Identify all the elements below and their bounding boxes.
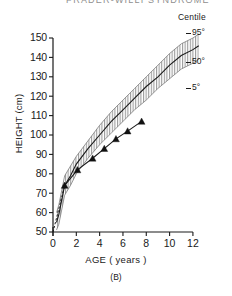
legend-title: Centile <box>178 12 206 22</box>
x-tick-label: 10 <box>164 237 176 249</box>
legend-label-5: 5° <box>192 82 200 92</box>
x-axis-label: AGE ( years ) <box>0 254 232 265</box>
patient-data-point <box>124 128 131 134</box>
x-tick-label: 4 <box>97 237 103 249</box>
legend-dash-95 <box>186 33 191 34</box>
plot-canvas: 5060708090100110120130140150024681012 <box>0 0 232 296</box>
y-tick-label: 70 <box>36 187 48 199</box>
panel-letter: (B) <box>0 272 232 282</box>
legend-label-95: 95° <box>192 27 205 37</box>
y-tick-label: 100 <box>30 128 47 140</box>
legend-dash-5 <box>186 88 191 89</box>
y-tick-label: 50 <box>36 225 48 237</box>
legend-dash-50 <box>186 62 191 63</box>
y-tick-label: 140 <box>30 51 47 63</box>
figure-title: PRADER-WILLI SYNDROME <box>66 0 210 5</box>
y-tick-label: 120 <box>30 90 47 102</box>
x-tick-label: 8 <box>143 237 149 249</box>
y-tick-label: 110 <box>31 109 47 121</box>
growth-chart-figure: PRADER-WILLI SYNDROME 506070809010011012… <box>0 0 232 296</box>
y-tick-label: 60 <box>36 206 48 218</box>
legend-label-50: 50° <box>192 56 205 66</box>
y-tick-label: 90 <box>36 148 48 160</box>
y-tick-label: 80 <box>36 167 48 179</box>
x-tick-label: 2 <box>73 237 79 249</box>
y-tick-label: 150 <box>30 31 47 43</box>
y-tick-label: 130 <box>30 70 47 82</box>
x-tick-label: 0 <box>50 237 56 249</box>
figure-title-strip: PRADER-WILLI SYNDROME <box>0 0 232 7</box>
y-axis-label: HEIGHT (cm) <box>13 84 24 164</box>
patient-data-point <box>113 135 120 141</box>
x-tick-label: 6 <box>120 237 126 249</box>
x-tick-label: 12 <box>187 237 199 249</box>
patient-data-point <box>138 118 145 124</box>
